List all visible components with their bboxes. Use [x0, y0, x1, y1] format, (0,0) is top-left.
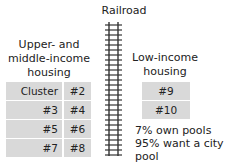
cluster-cell-4: #4: [64, 101, 91, 119]
note-want-city-pool: 95% want a city pool: [135, 137, 248, 163]
cluster-cell-8: #8: [64, 139, 91, 157]
cluster-cell-6: #6: [64, 120, 91, 138]
pool-stats: 7% own pools 95% want a city pool: [135, 124, 248, 163]
note-own-pools: 7% own pools: [135, 124, 248, 137]
label-line: housing: [2, 66, 96, 80]
cluster-cell-5: #5: [6, 120, 62, 138]
label-line: Upper- and: [2, 38, 96, 52]
cluster-cell-10: #10: [142, 101, 190, 119]
cluster-cell-2: #2: [64, 82, 91, 100]
label-line: Low-income: [130, 51, 200, 65]
railroad-track-icon: [104, 22, 124, 158]
low-income-label: Low-income housing: [130, 51, 200, 79]
cluster-cell-3: #3: [6, 101, 62, 119]
cluster-cell-7: #7: [6, 139, 62, 157]
label-line: housing: [130, 65, 200, 79]
upper-middle-income-label: Upper- and middle-income housing: [2, 38, 96, 80]
railroad-label: Railroad: [94, 4, 154, 17]
cluster-cell-1: Cluster #1: [6, 82, 62, 100]
label-line: middle-income: [2, 52, 96, 66]
cluster-cell-9: #9: [142, 82, 190, 100]
